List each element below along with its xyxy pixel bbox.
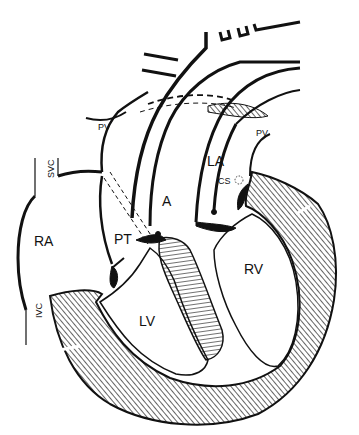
label-lv: LV bbox=[139, 313, 156, 329]
label-pt: PT bbox=[114, 231, 132, 247]
label-cs: CS bbox=[218, 176, 231, 186]
pulmonary-vein-right bbox=[250, 134, 270, 176]
label-pv-left: PV bbox=[98, 122, 110, 132]
label-ivc: IVC bbox=[34, 302, 44, 318]
heart-drawing: RA LA LV RV PT A CS PV PV SVC IVC bbox=[0, 0, 359, 435]
label-la: LA bbox=[207, 153, 225, 169]
heart-diagram: RA LA LV RV PT A CS PV PV SVC IVC bbox=[0, 0, 359, 435]
coronary-sinus-marker bbox=[235, 176, 243, 184]
label-pv-right: PV bbox=[256, 128, 268, 138]
label-svc: SVC bbox=[46, 159, 56, 178]
pulmonary-vein-left bbox=[86, 112, 126, 120]
label-a: A bbox=[162, 193, 172, 209]
label-rv: RV bbox=[244, 261, 264, 277]
label-ra: RA bbox=[34, 233, 54, 249]
